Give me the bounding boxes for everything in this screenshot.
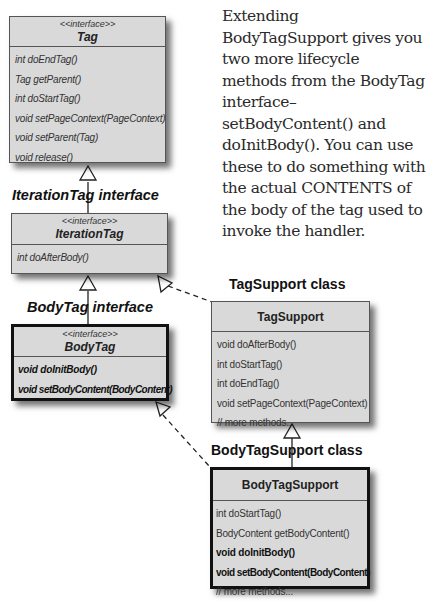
- implements-line-bodytagsupport-bodytag: [163, 415, 210, 467]
- method: int doEndTag(): [217, 374, 369, 394]
- class-name: BodyTagSupport: [213, 470, 367, 500]
- method: void doInitBody(): [216, 543, 367, 563]
- method: int doStartTag(): [15, 89, 165, 109]
- method: int doStartTag(): [216, 504, 367, 524]
- method: int doStartTag(): [217, 355, 369, 375]
- method: int doAfterBody(): [17, 248, 167, 268]
- method: void setParent(Tag): [15, 128, 165, 148]
- inheritance-arrow-icon: [80, 166, 96, 180]
- box-header: <<interface>> Tag: [10, 17, 165, 47]
- method-list: int doEndTag() Tag getParent() int doSta…: [10, 47, 165, 167]
- interface-name: IterationTag: [12, 227, 167, 242]
- tag-interface-box: <<interface>> Tag int doEndTag() Tag get…: [9, 16, 166, 163]
- method: Tag getParent(): [15, 70, 165, 90]
- method: void setPageContext(PageContext): [217, 394, 369, 414]
- method: int doEndTag(): [15, 50, 165, 70]
- interface-name: Tag: [10, 30, 165, 45]
- bodytagsupport-class-box: BodyTagSupport int doStartTag() BodyCont…: [210, 467, 370, 589]
- realization-arrow-icon: [158, 276, 172, 292]
- method: void release(): [15, 148, 165, 168]
- method: // more methods...: [217, 413, 369, 433]
- iterationtag-interface-box: <<interface>> IterationTag int doAfterBo…: [11, 213, 168, 274]
- class-name: TagSupport: [212, 302, 369, 332]
- bodytag-interface-box: <<interface>> BodyTag void doInitBody() …: [11, 324, 169, 401]
- method: void setBodyContent(BodyContent): [18, 380, 166, 400]
- inheritance-arrow-icon: [80, 276, 96, 290]
- method-list: int doAfterBody(): [12, 245, 167, 268]
- tagsupport-class-label: TagSupport class: [229, 276, 345, 292]
- iterationtag-interface-label: IterationTag interface: [12, 187, 159, 203]
- explanation-note: Extending BodyTagSupport gives you two m…: [222, 6, 427, 243]
- stereotype-label: <<interface>>: [10, 17, 165, 30]
- stereotype-label: <<interface>>: [12, 214, 167, 227]
- tagsupport-class-box: TagSupport void doAfterBody() int doStar…: [211, 301, 370, 423]
- method: void setBodyContent(BodyContent): [216, 563, 367, 583]
- interface-name: BodyTag: [14, 340, 166, 355]
- bodytag-interface-label: BodyTag interface: [27, 299, 153, 315]
- method: void doAfterBody(): [217, 335, 369, 355]
- implements-line-tagsupport-iterationtag: [168, 286, 212, 302]
- method: BodyContent getBodyContent(): [216, 524, 367, 544]
- box-header: <<interface>> BodyTag: [14, 327, 166, 357]
- stereotype-label: <<interface>>: [14, 327, 166, 340]
- method: void doInitBody(): [18, 360, 166, 380]
- method: // more methods...: [216, 582, 367, 602]
- method-list: void doAfterBody() int doStartTag() int …: [212, 332, 369, 433]
- box-header: BodyTagSupport: [213, 470, 367, 501]
- realization-arrow-icon: [156, 402, 170, 416]
- method: void setPageContext(PageContext): [15, 109, 165, 129]
- bodytagsupport-class-label: BodyTagSupport class: [211, 442, 362, 458]
- method-list: void doInitBody() void setBodyContent(Bo…: [14, 357, 166, 399]
- box-header: <<interface>> IterationTag: [12, 214, 167, 245]
- method-list: int doStartTag() BodyContent getBodyCont…: [213, 501, 367, 602]
- box-header: TagSupport: [212, 302, 369, 332]
